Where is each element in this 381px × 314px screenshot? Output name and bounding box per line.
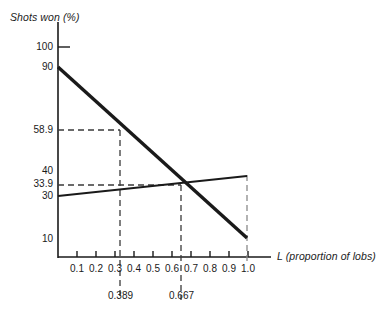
chart-figure: Shots won (%) L (proportion of lobs) 100… [0,0,381,314]
y-tick-label-40: 40 [2,166,53,176]
callout-label-0-667: 0.667 [165,291,198,301]
y-tick-label-58-9: 58.9 [2,125,53,135]
y-tick-label-10: 10 [2,234,53,244]
callout-label-0-389: 0.389 [104,291,137,301]
y-tick-label-30: 30 [2,191,53,201]
series-descending-line [58,67,247,238]
series-ascending-line [58,176,247,196]
x-axis-ticks [77,251,248,257]
x-axis-title: L (proportion of lobs) [277,251,376,262]
y-tick-label-33-9: 33.9 [2,179,53,189]
x-tick-label-1-0: 1.0 [235,264,261,274]
y-tick-label-90: 90 [2,62,53,72]
y-tick-label-100: 100 [2,42,53,52]
y-axis-title: Shots won (%) [10,12,80,23]
